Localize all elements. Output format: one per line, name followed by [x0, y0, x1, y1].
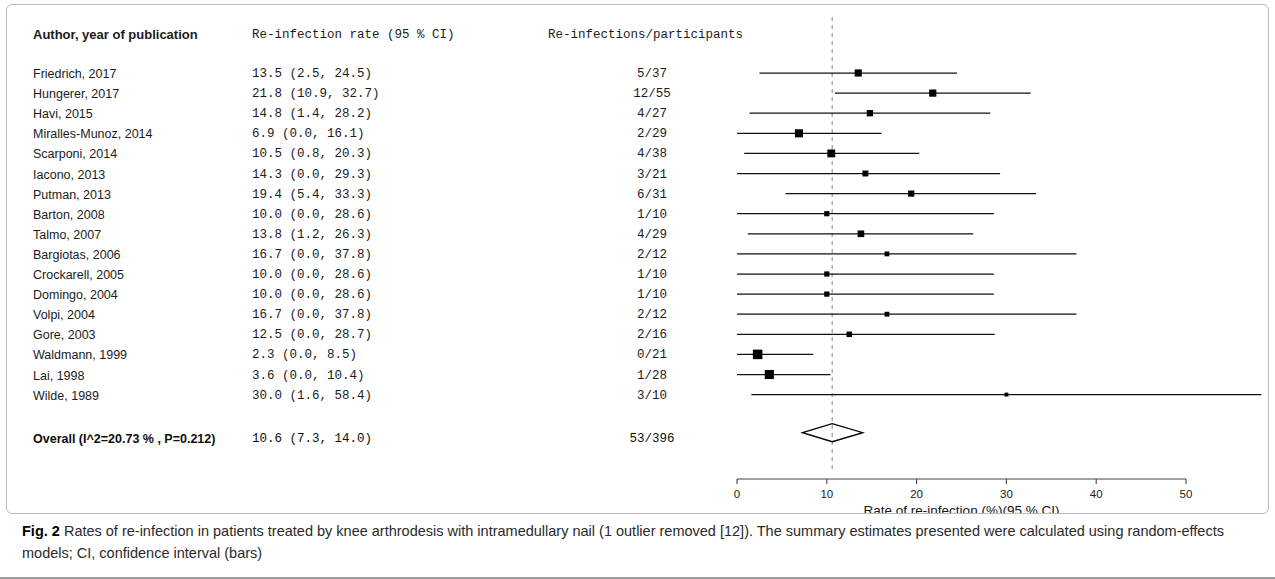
study-rate: 12.5 (0.0, 28.7): [252, 328, 372, 342]
study-events: 1/10: [567, 288, 737, 302]
plot-panel: Author, year of publication Re-infection…: [6, 4, 1269, 514]
study-rate: 10.0 (0.0, 28.6): [252, 268, 372, 282]
study-author: Domingo, 2004: [33, 288, 118, 302]
study-author: Havi, 2015: [33, 107, 93, 121]
study-events: 2/12: [567, 308, 737, 322]
plot-panel-inner: Author, year of publication Re-infection…: [7, 5, 1268, 513]
forest-row: [751, 393, 1261, 397]
forest-row: [737, 271, 994, 276]
forest-row: [744, 149, 919, 157]
study-author: Putman, 2013: [33, 188, 111, 202]
forest-row: [737, 171, 1000, 177]
study-author: Volpi, 2004: [33, 308, 95, 322]
study-rate: 10.0 (0.0, 28.6): [252, 288, 372, 302]
study-events: 0/21: [567, 348, 737, 362]
study-events: 3/21: [567, 168, 737, 182]
study-author: Iacono, 2013: [33, 168, 105, 182]
forest-row: [785, 191, 1036, 197]
forest-row: [750, 110, 991, 116]
study-events: 4/27: [567, 107, 737, 121]
summary-diamond: [803, 424, 863, 442]
forest-row: [737, 350, 813, 360]
overall-author: Overall (I^2=20.73 % , P=0.212): [33, 432, 215, 446]
caption-label: Fig. 2: [22, 523, 60, 539]
study-rate: 30.0 (1.6, 58.4): [252, 389, 372, 403]
forest-row: [737, 211, 994, 216]
overall-rate: 10.6 (7.3, 14.0): [252, 432, 372, 446]
x-axis-tick-label: 40: [1090, 488, 1103, 500]
study-author: Talmo, 2007: [33, 228, 101, 242]
study-rate: 2.3 (0.0, 8.5): [252, 348, 357, 362]
effect-marker: [867, 110, 873, 116]
x-axis-tick-label: 20: [910, 488, 923, 500]
study-rate: 14.3 (0.0, 29.3): [252, 168, 372, 182]
study-author: Bargiotas, 2006: [33, 248, 121, 262]
study-events: 2/12: [567, 248, 737, 262]
study-author: Friedrich, 2017: [33, 67, 116, 81]
forest-row: [737, 251, 1076, 256]
x-axis-title: Rate of re-infection (%)(95 % CI): [864, 503, 1060, 514]
study-rate: 14.8 (1.4, 28.2): [252, 107, 372, 121]
x-axis-tick-label: 10: [820, 488, 833, 500]
study-rate: 21.8 (10.9, 32.7): [252, 87, 380, 101]
study-author: Lai, 1998: [33, 369, 84, 383]
forest-row: [748, 230, 973, 237]
x-axis-tick-label: 30: [1000, 488, 1013, 500]
study-events: 3/10: [567, 389, 737, 403]
effect-marker: [908, 191, 914, 197]
effect-marker: [795, 129, 803, 137]
study-author: Wilde, 1989: [33, 389, 99, 403]
study-events: 12/55: [567, 87, 737, 101]
effect-marker: [824, 271, 829, 276]
study-author: Scarponi, 2014: [33, 147, 117, 161]
study-events: 2/29: [567, 127, 737, 141]
x-axis-tick-label: 0: [734, 488, 740, 500]
forest-row: [737, 129, 882, 137]
effect-marker: [824, 292, 829, 297]
effect-marker: [824, 211, 829, 216]
header-author: Author, year of publication: [33, 27, 198, 42]
study-author: Miralles-Munoz, 2014: [33, 127, 153, 141]
study-rate: 10.0 (0.0, 28.6): [252, 208, 372, 222]
effect-marker: [765, 370, 774, 379]
effect-marker: [929, 89, 936, 96]
effect-marker: [827, 149, 835, 157]
forest-row: [737, 332, 995, 337]
study-rate: 13.8 (1.2, 26.3): [252, 228, 372, 242]
forest-plot-figure: Author, year of publication Re-infection…: [0, 0, 1275, 579]
effect-marker: [855, 69, 862, 76]
effect-marker: [858, 230, 865, 237]
overall-events: 53/396: [567, 432, 737, 446]
study-events: 1/10: [567, 268, 737, 282]
study-rate: 16.7 (0.0, 37.8): [252, 248, 372, 262]
study-events: 4/38: [567, 147, 737, 161]
study-rate: 19.4 (5.4, 33.3): [252, 188, 372, 202]
forest-row: [835, 89, 1031, 96]
header-rate: Re-infection rate (95 % CI): [252, 28, 455, 42]
study-events: 1/28: [567, 369, 737, 383]
effect-marker: [753, 350, 763, 360]
study-events: 5/37: [567, 67, 737, 81]
study-events: 2/16: [567, 328, 737, 342]
study-events: 1/10: [567, 208, 737, 222]
header-events: Re-infections/participants: [548, 28, 743, 42]
study-rate: 16.7 (0.0, 37.8): [252, 308, 372, 322]
effect-marker: [885, 251, 890, 256]
study-events: 4/29: [567, 228, 737, 242]
x-axis-tick-label: 50: [1180, 488, 1193, 500]
effect-marker: [1004, 393, 1008, 397]
figure-caption: Fig. 2 Rates of re-infection in patients…: [22, 520, 1262, 564]
study-rate: 6.9 (0.0, 16.1): [252, 127, 365, 141]
forest-row: [759, 69, 957, 76]
study-rate: 3.6 (0.0, 10.4): [252, 369, 365, 383]
effect-marker: [847, 332, 852, 337]
study-events: 6/31: [567, 188, 737, 202]
study-author: Barton, 2008: [33, 208, 105, 222]
study-author: Waldmann, 1999: [33, 348, 127, 362]
forest-row: [737, 312, 1076, 317]
study-author: Crockarell, 2005: [33, 268, 124, 282]
study-rate: 10.5 (0.8, 20.3): [252, 147, 372, 161]
study-rate: 13.5 (2.5, 24.5): [252, 67, 372, 81]
effect-marker: [885, 312, 890, 317]
effect-marker: [862, 171, 868, 177]
